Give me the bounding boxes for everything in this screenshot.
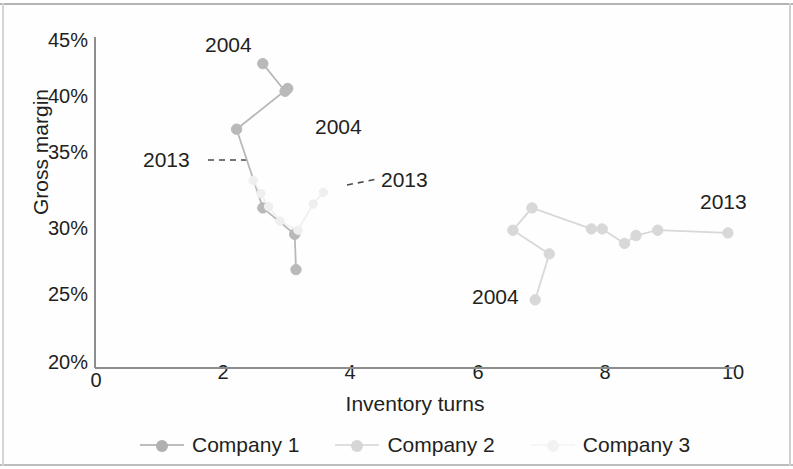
legend-label-company-2: Company 2 <box>387 433 494 457</box>
data-point[interactable] <box>530 295 540 305</box>
chart-figure: 45% 40% 35% 30% 25% 20% 0 2 4 6 8 10 Gro… <box>0 0 793 469</box>
data-point[interactable] <box>276 217 284 225</box>
data-point[interactable] <box>249 176 257 184</box>
legend-marker-company-1 <box>140 437 184 453</box>
legend-label-company-3: Company 3 <box>583 433 690 457</box>
data-point[interactable] <box>309 200 317 208</box>
legend-label-company-1: Company 1 <box>192 433 299 457</box>
data-point[interactable] <box>294 226 302 234</box>
legend: Company 1 Company 2 Company 3 <box>140 428 670 462</box>
legend-item-company-1[interactable]: Company 1 <box>140 433 299 457</box>
data-point[interactable] <box>258 58 268 68</box>
data-point[interactable] <box>291 264 301 274</box>
data-point[interactable] <box>508 225 518 235</box>
data-point[interactable] <box>586 224 596 234</box>
data-point[interactable] <box>653 225 663 235</box>
legend-marker-company-2 <box>335 437 379 453</box>
data-point[interactable] <box>264 202 272 210</box>
legend-marker-company-3 <box>531 437 575 453</box>
data-point[interactable] <box>231 124 241 134</box>
data-point[interactable] <box>544 249 554 259</box>
data-point[interactable] <box>257 189 265 197</box>
data-point[interactable] <box>527 203 537 213</box>
data-point[interactable] <box>723 228 733 238</box>
legend-item-company-3[interactable]: Company 3 <box>531 433 690 457</box>
axis-lines <box>95 37 735 368</box>
legend-item-company-2[interactable]: Company 2 <box>335 433 494 457</box>
data-point[interactable] <box>631 230 641 240</box>
data-point[interactable] <box>597 224 607 234</box>
series-company-2 <box>508 203 733 305</box>
series-company-1 <box>231 58 301 274</box>
data-point[interactable] <box>283 83 293 93</box>
data-point[interactable] <box>619 238 629 248</box>
annotation-leader-lines <box>208 160 377 185</box>
plot-area <box>0 0 793 469</box>
data-point[interactable] <box>319 188 327 196</box>
